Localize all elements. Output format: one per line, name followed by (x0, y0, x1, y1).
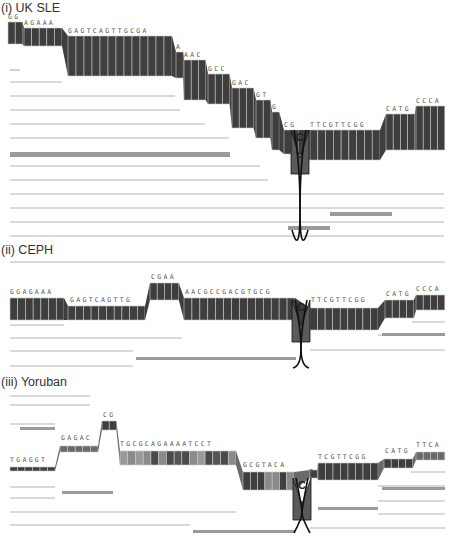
base-sequence-label: GAGTCAGTTGCGA (68, 27, 149, 35)
base-cell (416, 295, 423, 310)
base-cell (265, 472, 272, 490)
base-sequence-label: T (309, 468, 315, 476)
base-cell (197, 451, 205, 465)
base-cell (284, 130, 291, 154)
base-cell (68, 36, 76, 76)
base-cell (18, 298, 26, 320)
base-cell (156, 36, 164, 76)
base-cell (102, 421, 109, 430)
base-cell (100, 36, 108, 76)
base-sequence-label: GAGAC (61, 434, 92, 442)
base-cell (349, 130, 357, 160)
base-sequence-label: AAC (184, 51, 203, 59)
panel-title: (iii) Yoruban (1, 375, 67, 389)
base-cell (132, 36, 140, 76)
block-connector (98, 421, 102, 452)
base-cell (205, 451, 213, 465)
base-cell (325, 308, 333, 330)
base-cell (8, 22, 15, 44)
base-cell (40, 467, 48, 471)
base-cell (108, 36, 116, 76)
base-cell (348, 308, 356, 330)
base-cell (90, 446, 98, 452)
sequence-blocks (8, 22, 445, 160)
base-cell (33, 467, 41, 471)
base-cell (49, 298, 57, 320)
base-sequence-label: TGAGGT (10, 456, 47, 464)
base-cell (151, 451, 159, 465)
base-sequence-label: GGAGAAA (10, 288, 54, 296)
base-cell (398, 459, 405, 468)
base-cell (423, 295, 430, 310)
minor-haplotype-band (382, 487, 445, 490)
panel-uk-sle: (i) UK SLE GGAGAAAGAGTCAGTTGCGAAAACGCCGA… (1, 1, 445, 240)
base-sequence-label: TTCA (416, 441, 441, 449)
minor-haplotype-band (330, 212, 392, 216)
base-sequence-label: GCC (208, 65, 227, 73)
base-cell (438, 295, 445, 310)
base-cell (76, 36, 84, 76)
base-cell (148, 36, 156, 76)
base-cell (355, 308, 363, 330)
base-sequence-label: TGCGCAGAAAATCCT (120, 440, 213, 448)
base-cell (399, 300, 406, 318)
base-cell (128, 451, 136, 465)
base-cell (116, 36, 124, 76)
base-cell (99, 306, 107, 320)
base-cell (326, 463, 334, 480)
minor-haplotype-band (193, 530, 295, 533)
base-cell (32, 28, 40, 46)
minor-haplotype-band (62, 491, 113, 494)
base-cell (271, 298, 279, 320)
base-cell (240, 298, 248, 320)
panel-ceph: (ii) CEPH GGAGAAAGAGTCAGTTGCGAAAACGCCGAC… (1, 243, 445, 368)
base-cell (76, 306, 84, 320)
base-cell (200, 298, 208, 320)
base-cell (363, 308, 371, 330)
base-cell (263, 100, 270, 138)
base-cell (33, 298, 41, 320)
minor-haplotype-band (288, 226, 330, 230)
base-cell (56, 298, 64, 320)
base-cell (124, 36, 132, 76)
snp-allele-label: C (297, 301, 305, 313)
block-connector (179, 283, 184, 320)
base-cell (120, 451, 128, 465)
base-cell (174, 451, 182, 465)
base-sequence-label: CCCA (416, 97, 441, 105)
base-cell (215, 74, 222, 104)
base-cell (18, 467, 26, 471)
base-sequence-label: TCGTTCGG (318, 453, 368, 461)
base-cell (357, 130, 365, 160)
base-cell (130, 306, 138, 320)
base-cell (191, 60, 198, 100)
base-cell (172, 283, 179, 300)
base-cell (385, 300, 392, 318)
base-cell (256, 100, 263, 138)
snp-allele-label: C (298, 479, 306, 491)
base-cell (15, 22, 22, 44)
base-cell (198, 60, 205, 100)
base-sequence-label: CATG (386, 290, 411, 298)
base-cell (216, 298, 224, 320)
base-sequence-label: AGAAA (24, 19, 55, 27)
sequence-blocks (10, 421, 445, 490)
base-cell (224, 298, 232, 320)
base-sequence-label: CG (103, 411, 115, 419)
base-cell (84, 36, 92, 76)
base-cell (184, 60, 191, 100)
base-cell (406, 459, 413, 468)
base-sequence-label: GT (256, 91, 268, 99)
base-cell (416, 106, 423, 150)
base-cell (10, 467, 18, 471)
block-connector (380, 114, 386, 160)
base-cell (272, 472, 279, 490)
base-cell (47, 28, 55, 46)
base-cell (250, 472, 257, 490)
block-connector (62, 28, 68, 76)
base-cell (416, 452, 423, 460)
base-cell (438, 452, 445, 460)
base-cell (83, 306, 91, 320)
panel-yoruban: (iii) Yoruban TGAGGTGAGACCGTGCGCAGAAAATC… (1, 375, 445, 533)
base-cell (184, 298, 192, 320)
